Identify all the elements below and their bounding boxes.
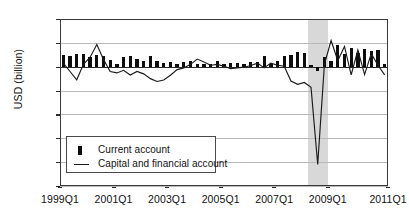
x-tick-mark [272,187,276,188]
x-tick-mark [58,187,62,188]
y-axis-title: USD (billion) [12,29,26,129]
x-tick-mark [219,187,223,188]
chart-legend: Current account Capital and financial ac… [66,136,216,173]
x-tick-mark [326,187,330,188]
x-tick-label: 2011Q1 [353,193,409,205]
legend-label: Capital and financial account [98,158,227,169]
gridline [60,186,388,187]
chart-figure: USD (billion) 20100-10-20-30-40-50 1999Q… [0,0,409,213]
x-tick-mark [165,187,169,188]
bar-swatch-icon [78,146,82,155]
legend-label: Current account [98,144,170,155]
x-tick-mark [112,187,116,188]
line-swatch-icon [74,164,89,165]
x-tick-mark [386,187,390,188]
